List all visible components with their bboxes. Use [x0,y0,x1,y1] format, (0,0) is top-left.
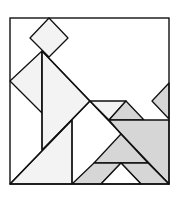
square-diamond [30,18,68,57]
gray-right-notch-triangle [152,83,169,119]
tangram-diagram [0,0,180,199]
left-medium-triangle [10,51,42,113]
